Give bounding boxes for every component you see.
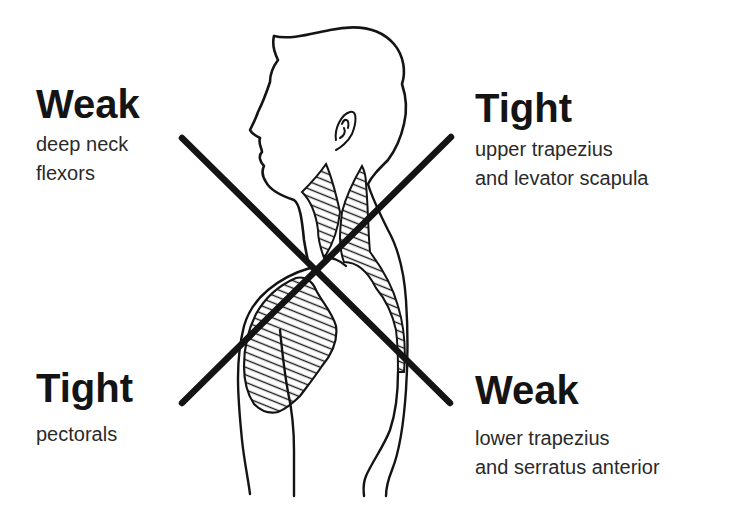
desc-line: pectorals bbox=[36, 420, 133, 449]
desc-line: flexors bbox=[36, 159, 140, 188]
desc-line: lower trapezius bbox=[475, 424, 660, 453]
tight-heading-bottom: Tight bbox=[36, 368, 133, 408]
weak-heading-bottom: Weak bbox=[475, 370, 660, 410]
desc-line: and serratus anterior bbox=[475, 453, 660, 482]
quadrant-bottom-left: Tight pectorals bbox=[36, 368, 133, 449]
desc-line: upper trapezius bbox=[475, 135, 648, 164]
desc-line: and levator scapula bbox=[475, 164, 648, 193]
ear-outline bbox=[336, 112, 356, 150]
deep-neck-flexors-label: deep neck flexors bbox=[36, 130, 140, 188]
quadrant-top-left: Weak deep neck flexors bbox=[36, 84, 140, 188]
weak-heading-top: Weak bbox=[36, 84, 140, 124]
lower-trapezius-label: lower trapezius and serratus anterior bbox=[475, 424, 660, 482]
quadrant-bottom-right: Weak lower trapezius and serratus anteri… bbox=[475, 370, 660, 482]
upper-trapezius-label: upper trapezius and levator scapula bbox=[475, 135, 648, 193]
quadrant-top-right: Tight upper trapezius and levator scapul… bbox=[475, 88, 648, 193]
pectorals-label: pectorals bbox=[36, 420, 133, 449]
desc-line: deep neck bbox=[36, 130, 140, 159]
tight-heading-top: Tight bbox=[475, 88, 648, 128]
